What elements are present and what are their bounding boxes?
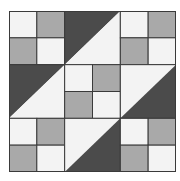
patch-light <box>120 118 148 145</box>
patch-light <box>9 118 37 145</box>
quilt-block-1-2 <box>120 65 176 119</box>
quilt-block-2-2 <box>120 118 176 172</box>
patch-light <box>93 92 121 119</box>
patch-light <box>9 11 37 38</box>
quilt-block <box>9 11 176 172</box>
patch-light <box>37 38 65 65</box>
patch-light <box>65 65 93 92</box>
quilt-block-0-2 <box>120 11 176 65</box>
quilt-block-2-1 <box>65 118 121 172</box>
quilt-block-0-0 <box>9 11 65 65</box>
patch-light <box>37 145 65 172</box>
patch-medium <box>37 118 65 145</box>
quilt-block-2-0 <box>9 118 65 172</box>
patch-light <box>148 38 176 65</box>
quilt-block-1-0 <box>9 65 65 119</box>
patch-medium <box>93 65 121 92</box>
patch-medium <box>120 145 148 172</box>
patch-light <box>120 11 148 38</box>
patch-medium <box>9 38 37 65</box>
quilt-block-0-1 <box>65 11 121 65</box>
quilt-svg <box>9 11 176 172</box>
patch-light <box>148 145 176 172</box>
patch-medium <box>148 118 176 145</box>
quilt-block-1-1 <box>65 65 121 119</box>
patch-medium <box>65 92 93 119</box>
patch-medium <box>120 38 148 65</box>
patch-medium <box>37 11 65 38</box>
patch-medium <box>9 145 37 172</box>
patch-medium <box>148 11 176 38</box>
